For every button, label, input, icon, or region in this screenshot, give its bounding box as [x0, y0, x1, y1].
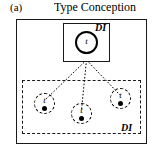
figure-title: Type Conception: [40, 0, 150, 15]
figure-panel-label: (a): [10, 1, 22, 14]
instance-dot-icon: [42, 106, 47, 111]
instance-node-right: t: [110, 88, 131, 109]
instance-dot-icon: [79, 116, 84, 121]
instance-node-left-label: t: [35, 95, 54, 106]
di-label-top: DI: [95, 22, 106, 33]
instance-node-right-label: t: [111, 90, 130, 101]
di-label-bottom: DI: [121, 122, 132, 133]
figure-type-conception: (a) Type Conception DI t t t t DI: [0, 0, 161, 153]
instance-node-middle-label: t: [72, 105, 91, 116]
root-type-node: t: [75, 31, 98, 54]
root-type-node-label: t: [77, 36, 96, 47]
instance-node-left: t: [34, 93, 55, 114]
instance-dot-icon: [118, 101, 123, 106]
instance-node-middle: t: [71, 103, 92, 124]
